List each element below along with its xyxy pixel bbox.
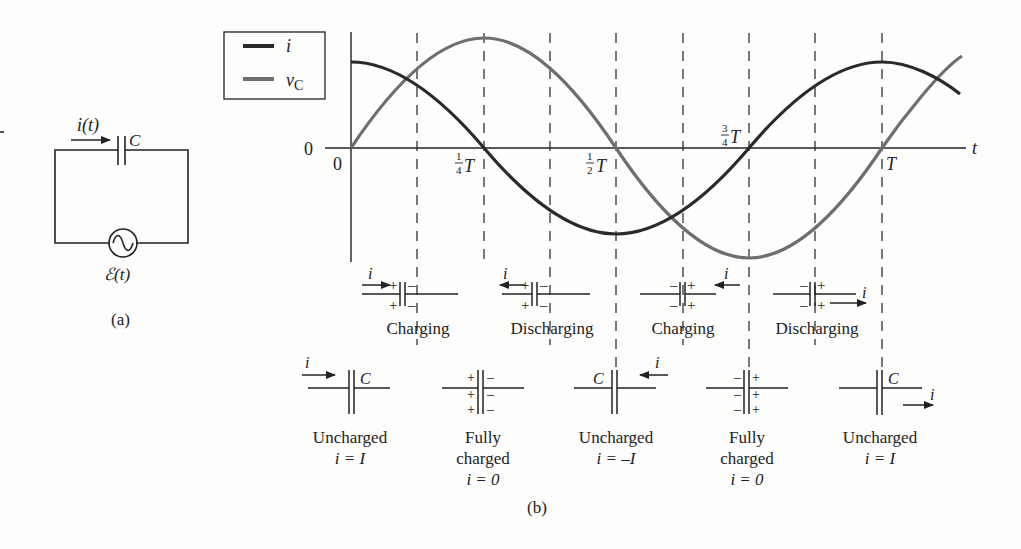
svg-text:–: – — [733, 370, 742, 385]
phase-3-label: Charging — [638, 318, 728, 339]
state-3-capacitor — [574, 370, 668, 414]
state-5-current-label: i — [930, 386, 934, 403]
state-2-line1: Fully — [433, 427, 533, 448]
phase-1-label: Charging — [373, 318, 463, 339]
svg-text:T: T — [464, 156, 476, 176]
svg-text:1: 1 — [587, 150, 593, 162]
state-1-equation: i = I — [300, 448, 400, 469]
state-3-line1: Uncharged — [566, 427, 666, 448]
svg-text:–: – — [539, 297, 548, 313]
svg-text:+: + — [467, 370, 475, 385]
svg-text:–: – — [799, 277, 808, 293]
tick-half-T: 1 2 T — [586, 150, 608, 176]
state-capacitors — [302, 370, 933, 415]
svg-text:–: – — [669, 277, 678, 293]
wire-right — [125, 150, 188, 243]
state-2-line2: charged — [433, 448, 533, 469]
state-5-capacitor-label: C — [888, 370, 899, 387]
tick-three-quarter-T: 3 4 T — [721, 122, 742, 148]
current-label: i(t) — [77, 115, 99, 136]
svg-text:+: + — [521, 297, 529, 313]
capacitor-label: C — [129, 131, 141, 150]
svg-text:+: + — [817, 277, 825, 293]
svg-text:1: 1 — [456, 150, 462, 162]
phase-1-current-label: i — [368, 265, 372, 282]
legend — [224, 32, 325, 99]
state-2-capacitor — [442, 370, 524, 414]
state-3-current-label: i — [655, 354, 659, 371]
state-5-capacitor — [839, 370, 933, 415]
state-2-equation: i = 0 — [433, 469, 533, 490]
state-1-capacitor-label: C — [360, 370, 371, 387]
circuit-diagram — [0, 132, 188, 257]
tick-quarter-T: 1 4 T — [455, 150, 476, 176]
svg-text:–: – — [486, 370, 495, 385]
svg-text:+: + — [817, 297, 825, 313]
state-4-equation: i = 0 — [697, 469, 797, 490]
svg-text:4: 4 — [456, 164, 462, 176]
svg-text:+: + — [752, 402, 760, 417]
svg-text:–: – — [407, 277, 416, 293]
svg-text:+: + — [389, 277, 397, 293]
origin-label: 0 — [333, 154, 342, 174]
legend-label-vc: vC — [286, 70, 303, 93]
state-1-line1: Uncharged — [300, 427, 400, 448]
tick-T: T — [886, 154, 898, 174]
phase-capacitors — [362, 282, 866, 306]
state-3-caption: Uncharged i = –I — [566, 427, 666, 469]
svg-text:–: – — [733, 402, 742, 417]
x-axis-label: t — [972, 138, 978, 158]
svg-text:–: – — [799, 297, 808, 313]
state-5-line1: Uncharged — [830, 427, 930, 448]
svg-text:+: + — [687, 277, 695, 293]
svg-text:+: + — [467, 402, 475, 417]
svg-text:+: + — [521, 277, 529, 293]
svg-text:+: + — [467, 387, 475, 402]
state-4-line1: Fully — [697, 427, 797, 448]
svg-text:+: + — [687, 297, 695, 313]
state-4-caption: Fully charged i = 0 — [697, 427, 797, 490]
sine-wave-icon — [113, 236, 133, 251]
state-5-caption: Uncharged i = I — [830, 427, 930, 469]
svg-text:–: – — [669, 297, 678, 313]
phase-2-current-label: i — [503, 265, 507, 282]
panel-a-caption: (a) — [111, 310, 130, 329]
source-label: ℰ(t) — [104, 265, 130, 284]
state-4-capacitor — [706, 370, 788, 414]
svg-text:+: + — [752, 387, 760, 402]
svg-text:–: – — [539, 277, 548, 293]
state-5-equation: i = I — [830, 448, 930, 469]
phase-4-label: Discharging — [762, 318, 872, 339]
phase-4-current-label: i — [862, 284, 866, 301]
state-3-capacitor-label: C — [593, 370, 604, 387]
wire-left — [55, 150, 118, 243]
state-1-capacitor — [302, 370, 390, 414]
state-3-equation: i = –I — [566, 448, 666, 469]
svg-text:+: + — [752, 370, 760, 385]
svg-text:3: 3 — [722, 122, 728, 134]
svg-text:2: 2 — [587, 164, 593, 176]
phase-charge-signs: +–+– +–+– –+–+ –+–+ — [389, 277, 825, 313]
svg-text:T: T — [730, 127, 742, 147]
state-charge-signs: +– +– +– –+ –+ –+ — [467, 370, 760, 417]
phase-2-label: Discharging — [497, 318, 607, 339]
y-zero-label: 0 — [304, 139, 313, 159]
svg-text:–: – — [486, 387, 495, 402]
svg-text:–: – — [407, 297, 416, 313]
svg-text:–: – — [733, 387, 742, 402]
panel-b-caption: (b) — [527, 498, 547, 517]
svg-text:–: – — [486, 402, 495, 417]
phase-3-current-label: i — [724, 265, 728, 282]
state-1-current-label: i — [305, 354, 309, 371]
state-1-caption: Uncharged i = I — [300, 427, 400, 469]
svg-text:+: + — [389, 297, 397, 313]
svg-text:4: 4 — [722, 136, 728, 148]
svg-text:T: T — [596, 156, 608, 176]
legend-label-i: i — [286, 36, 291, 56]
state-4-line2: charged — [697, 448, 797, 469]
state-2-caption: Fully charged i = 0 — [433, 427, 533, 490]
